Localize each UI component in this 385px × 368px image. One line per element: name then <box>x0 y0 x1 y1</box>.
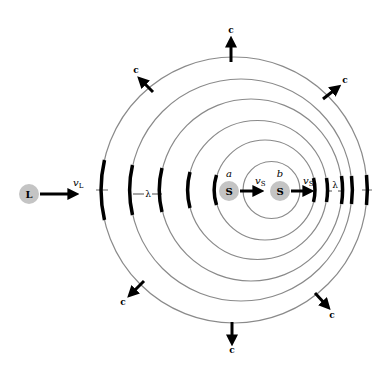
source-b-tag: b <box>277 168 283 179</box>
source-a-velocity-label: vS <box>255 175 266 188</box>
source-b-label: S <box>276 186 283 197</box>
svg-text:c: c <box>342 75 348 85</box>
arrow-down-left-icon <box>131 281 144 294</box>
arrow-down-right-icon <box>315 293 327 306</box>
source-a-tag: a <box>226 168 232 179</box>
wavelength-label-right: λ <box>332 180 338 190</box>
svg-text:c: c <box>133 65 139 75</box>
source-a-label: S <box>225 186 232 197</box>
svg-text:c: c <box>120 297 126 307</box>
doppler-diagram: λ λ c c c c c c L vL S a vS S b vS <box>0 0 385 368</box>
source-b-velocity-label: vS <box>303 175 314 188</box>
listener-label: L <box>25 189 32 200</box>
listener-velocity-label: vL <box>73 177 84 190</box>
svg-text:c: c <box>228 25 234 35</box>
svg-text:c: c <box>329 310 335 320</box>
wavelength-label-left: λ <box>145 189 151 199</box>
svg-text:c: c <box>229 345 235 355</box>
